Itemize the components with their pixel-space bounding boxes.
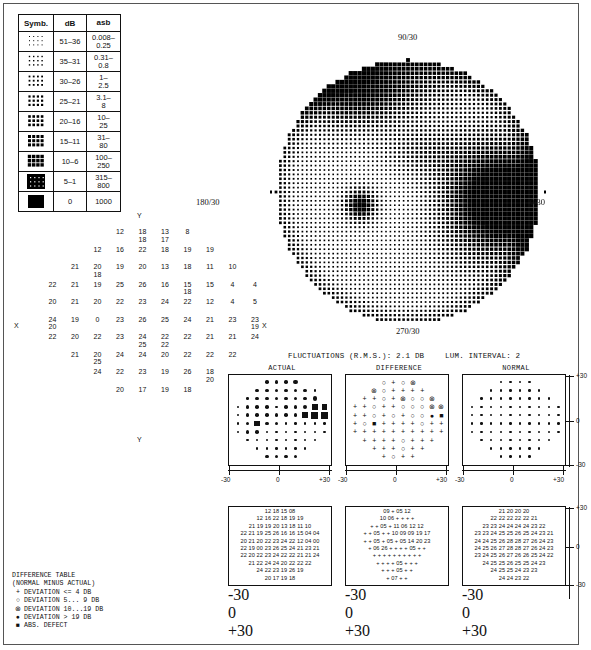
panel-actual: ACTUAL -300+30: [228, 364, 336, 478]
legend-db-value: 35–31: [54, 52, 87, 72]
actual-point: [304, 422, 307, 425]
legend-header-row: Symb. dB asb: [19, 15, 121, 32]
difference-symbol: ○: [380, 387, 388, 395]
actual-point: [293, 380, 298, 385]
difference-legend-glyph: +: [12, 589, 24, 597]
actual-point: [255, 389, 259, 393]
legend-db-value: 0: [54, 192, 87, 212]
normal-point: [490, 422, 493, 425]
visual-field-greyscale-map: 90/30 270/30 180/30 0/30: [248, 30, 568, 350]
difference-legend-title: DIFFERENCE TABLE: [12, 572, 103, 580]
difference-symbol: +: [361, 395, 369, 403]
field-value-cell: 2222: [157, 333, 173, 348]
difference-symbol: ●: [428, 412, 436, 420]
normal-point: [538, 439, 541, 442]
normal-point: [509, 422, 512, 425]
difference-legend-entry: ●DEVIATION > 19 DB: [12, 614, 103, 622]
actual-point: [314, 389, 317, 392]
normal-point: [548, 397, 551, 400]
actual-point: [284, 380, 288, 384]
field-value-cell: 19: [157, 368, 173, 376]
normal-point: [500, 414, 503, 417]
field-value-cell: 21: [67, 351, 83, 359]
normal-point: [528, 439, 531, 442]
legend-asb-value: 1000: [87, 192, 121, 212]
actual-point: [313, 396, 318, 401]
table-actual-body: 12 18 15 0812 16 22 18 19 1921 19 19 20 …: [228, 506, 332, 586]
normal-point: [528, 389, 531, 392]
actual-point: [303, 389, 307, 393]
normal-point: [519, 455, 522, 458]
difference-symbol: +: [409, 387, 417, 395]
actual-point: [266, 439, 269, 442]
legend-header-symb: Symb.: [19, 15, 54, 32]
normal-y-tick-label: -30: [576, 461, 585, 468]
difference-symbol: +: [409, 437, 417, 445]
normal-point: [548, 431, 551, 434]
actual-point: [284, 455, 288, 459]
normal-point: [519, 406, 522, 409]
field-axis-x-left: X: [14, 322, 19, 329]
difference-legend-text: DEVIATION <= 4 DB: [24, 589, 91, 596]
difference-symbol: +: [380, 453, 388, 461]
field-value-cell: 20: [45, 298, 61, 306]
legend-row: 15–1131–80: [19, 132, 121, 152]
normal-point: [480, 414, 483, 417]
legend-symbol-swatch: [19, 132, 54, 152]
actual-point: [321, 412, 328, 419]
actual-point: [294, 439, 297, 442]
field-value-cell: 24: [157, 298, 173, 306]
difference-symbol: +: [399, 387, 407, 395]
legend-symbol-swatch: [19, 52, 54, 72]
difference-symbol: +: [399, 420, 407, 428]
normal-point: [490, 414, 493, 417]
normal-point: [519, 381, 522, 384]
difference-legend-entry: +DEVIATION <= 4 DB: [12, 589, 103, 597]
actual-point: [314, 431, 317, 434]
normal-y-tick: [565, 376, 574, 377]
difference-legend-text: DEVIATION 10...19 DB: [24, 606, 103, 613]
difference-symbol: +: [351, 403, 359, 411]
table-normal-y-tick-label: -30: [576, 581, 585, 588]
normal-point: [538, 414, 541, 417]
table-normal-row: 23 23 24 24 24 24 23 22: [463, 523, 565, 530]
difference-legend-entry: ⊗DEVIATION 10...19 DB: [12, 606, 103, 614]
normal-point: [471, 414, 474, 417]
legend-symbol-swatch: [19, 152, 54, 172]
panel-difference-x-axis: -300+30: [345, 466, 449, 478]
field-value-cell: 19: [67, 316, 83, 324]
difference-symbol: +: [351, 420, 359, 428]
normal-point: [519, 439, 522, 442]
field-value-cell: 22: [112, 368, 128, 376]
field-value-cell: 4: [247, 281, 263, 289]
normal-point: [500, 422, 503, 425]
actual-point: [294, 447, 297, 450]
field-value-cell: 20: [67, 333, 83, 341]
table-difference-x-tick-label: 0: [345, 604, 449, 622]
difference-symbol: ■: [437, 412, 445, 420]
legend-body: 51–360.008–0.2535–310.31–0.830–261–2.525…: [19, 32, 121, 212]
normal-point: [528, 455, 531, 458]
normal-x-axis-line: [462, 470, 566, 471]
difference-symbol: +: [418, 387, 426, 395]
table-normal-row: 23 24 25 26 27 26 26 25 24 22: [463, 552, 565, 559]
actual-x-tick: [329, 466, 330, 475]
field-axis-y-bottom: Y: [137, 436, 142, 443]
table-difference-row: 09 + 05 12: [346, 508, 448, 515]
difference-symbol: +: [389, 387, 397, 395]
field-value-cell: 24: [112, 351, 128, 359]
difference-symbol: ○: [389, 412, 397, 420]
table-actual-row: 22 20 22 23 24 22 22 21 21 24: [229, 552, 331, 559]
difference-symbol: ○: [418, 420, 426, 428]
actual-x-tick-label: +30: [319, 476, 330, 483]
panel-normal-y-axis: +300-30: [565, 375, 591, 467]
actual-point: [303, 405, 308, 410]
legend-asb-value: 31–80: [87, 132, 121, 152]
legend-symbol-swatch: [19, 32, 54, 52]
actual-point: [265, 455, 269, 459]
field-value-cell: 1818: [135, 228, 151, 243]
normal-point: [500, 381, 503, 384]
field-value-cell: 24: [180, 316, 196, 324]
field-value-cell: 5: [247, 298, 263, 306]
field-value-cell: 19: [180, 246, 196, 254]
